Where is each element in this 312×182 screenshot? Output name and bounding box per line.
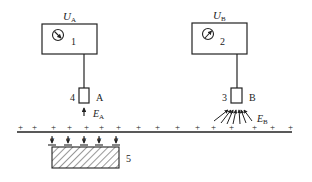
svg-text:+: +: [155, 122, 160, 132]
svg-text:+: +: [252, 122, 257, 132]
svg-text:+: +: [84, 122, 89, 132]
meter-a-box: [42, 24, 97, 54]
probe-a: 4 A EA: [70, 54, 104, 121]
svg-text:+: +: [195, 122, 200, 132]
svg-text:+: +: [67, 122, 72, 132]
charged-surface: + + + + + + + + + + + + + + + + + + + + …: [17, 122, 293, 145]
object-5: 5: [52, 147, 131, 168]
probe-b-letter: B: [249, 92, 256, 103]
hatched-object: [52, 147, 119, 168]
meter-b-voltage-label: UB: [213, 9, 226, 23]
probe-a-number: 4: [70, 92, 75, 103]
svg-text:+: +: [229, 122, 234, 132]
svg-text:+: +: [51, 122, 56, 132]
probe-b-sensor: [231, 88, 242, 103]
meter-b: UB 2: [192, 9, 247, 54]
svg-text:+: +: [99, 122, 104, 132]
object-number: 5: [126, 153, 131, 164]
svg-text:+: +: [18, 122, 23, 132]
probe-a-sensor: [79, 88, 89, 103]
meter-a-voltage-label: UA: [63, 10, 76, 24]
svg-text:+: +: [32, 122, 37, 132]
gauge-icon: [53, 30, 64, 41]
svg-text:+: +: [270, 122, 275, 132]
meter-a: UA 1: [42, 10, 97, 54]
svg-text:+: +: [136, 122, 141, 132]
diagram-canvas: UA 1 UB 2 4 A EA 3 B: [0, 0, 312, 182]
positive-charges: + + + + + + + + + + + + + + + +: [18, 122, 293, 132]
field-arrows-down-icon: [48, 136, 120, 145]
field-a-label: EA: [92, 108, 104, 121]
probe-a-letter: A: [96, 92, 104, 103]
svg-text:+: +: [116, 122, 121, 132]
gauge-icon: [203, 29, 214, 40]
field-b-label: EB: [256, 113, 268, 126]
svg-text:+: +: [175, 122, 180, 132]
probe-b: 3 B EB: [214, 54, 268, 126]
meter-a-number: 1: [71, 36, 76, 47]
probe-b-number: 3: [222, 92, 227, 103]
svg-text:+: +: [211, 122, 216, 132]
svg-text:+: +: [288, 122, 293, 132]
meter-b-number: 2: [220, 36, 225, 47]
